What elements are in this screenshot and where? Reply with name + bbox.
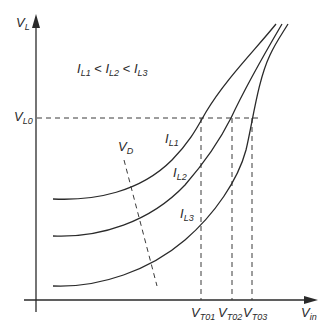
- vt02-label-sub: T02: [227, 312, 243, 322]
- diagram-canvas: [0, 0, 330, 331]
- vt03-label-sub: T03: [252, 312, 268, 322]
- y-axis-label: VL: [16, 16, 30, 32]
- vl0-label-main: V: [14, 109, 23, 124]
- condition-op-1: <: [94, 61, 102, 76]
- vt01-label: VT01: [191, 306, 215, 322]
- vt02-label-main: V: [218, 305, 227, 320]
- vl0-label: VL0: [14, 110, 33, 126]
- curve-il1-label-sub: L1: [169, 138, 179, 148]
- curve-il2-label-sub: L2: [177, 172, 187, 182]
- vd-label-sub: D: [127, 146, 134, 156]
- x-axis-label: Vin: [301, 306, 317, 322]
- vt03-label: VT03: [243, 306, 267, 322]
- condition-i2-sub: L2: [109, 68, 119, 78]
- curve-il1: [53, 24, 276, 199]
- x-axis-label-sub: in: [310, 312, 317, 322]
- vt01-label-main: V: [191, 305, 200, 320]
- condition-label: IL1 < IL2 < IL3: [77, 62, 148, 78]
- condition-op-2: <: [123, 61, 131, 76]
- vt02-label: VT02: [218, 306, 242, 322]
- y-axis-arrow-icon: [32, 14, 40, 28]
- vt03-label-main: V: [243, 305, 252, 320]
- y-axis-label-main: V: [16, 15, 25, 30]
- vd-label-main: V: [118, 139, 127, 154]
- condition-i3-sub: L3: [138, 68, 148, 78]
- y-axis-label-sub: L: [25, 22, 30, 32]
- curve-il2-label: IL2: [173, 166, 187, 182]
- curve-il1-label: IL1: [165, 132, 179, 148]
- x-axis-arrow-icon: [304, 296, 318, 304]
- curve-il3-label-sub: L3: [184, 213, 194, 223]
- vt01-label-sub: T01: [200, 312, 216, 322]
- x-axis-label-main: V: [301, 305, 310, 320]
- vd-label: VD: [118, 140, 133, 156]
- curve-il3-label: IL3: [180, 207, 194, 223]
- condition-i1-sub: L1: [81, 68, 91, 78]
- vl0-label-sub: L0: [23, 116, 33, 126]
